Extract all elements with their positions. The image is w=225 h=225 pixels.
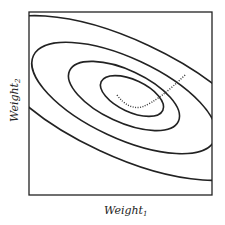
contour-outer [16,19,225,176]
x-axis-label: Weight1 [104,204,147,218]
plot-frame [29,12,212,195]
contour-middle [59,47,190,145]
contour-diagram: Weight1 Weight2 [0,0,225,225]
y-axis-label: Weight2 [8,78,22,122]
contour-outermost [0,0,225,214]
descent-path [117,74,186,108]
